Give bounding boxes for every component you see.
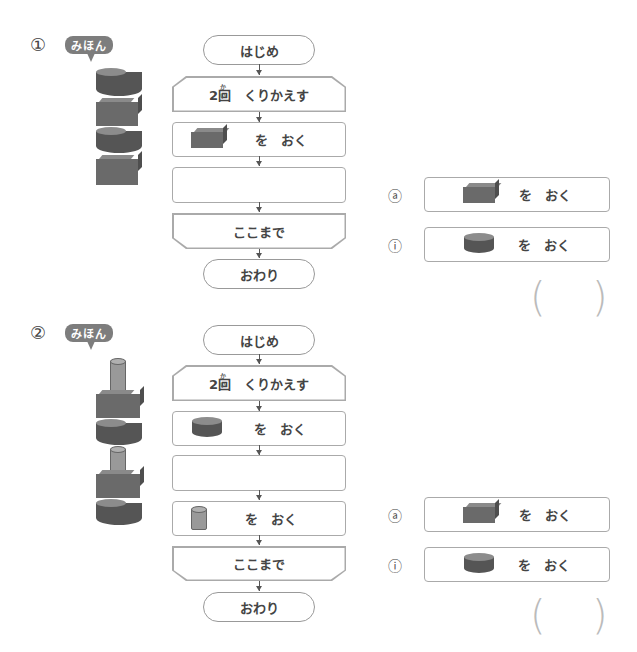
choice-mark-a-2: ⓐ bbox=[388, 505, 402, 525]
arrow-icon bbox=[259, 445, 260, 455]
flow-blank-slot-1[interactable] bbox=[172, 167, 346, 203]
cylinder-icon bbox=[96, 72, 142, 96]
problem-1-number: ① bbox=[30, 34, 46, 55]
cylinder-icon bbox=[96, 131, 142, 153]
flow-loop-start-1: 2かい回 くりかえす bbox=[172, 76, 346, 112]
flow-loop-end-2: ここまで bbox=[172, 546, 346, 581]
flow-end-2: おわり bbox=[203, 592, 315, 622]
rod-icon bbox=[110, 360, 126, 392]
flow-end-1: おわり bbox=[203, 259, 315, 289]
cube-icon bbox=[463, 187, 495, 203]
cube-icon bbox=[96, 394, 140, 418]
answer-close-paren-2: ) bbox=[592, 592, 608, 638]
arrow-icon bbox=[259, 64, 260, 75]
flow-blank-slot-2[interactable] bbox=[172, 455, 346, 491]
arrow-icon bbox=[259, 581, 260, 591]
choice-mark-a-1: ⓐ bbox=[388, 185, 402, 205]
cube-icon bbox=[96, 102, 138, 126]
sample-label-1: みほん bbox=[65, 36, 113, 54]
arrow-icon bbox=[259, 156, 260, 166]
choice-a-2[interactable]: を おく bbox=[424, 497, 610, 532]
cylinder-icon bbox=[192, 421, 222, 437]
cylinder-icon bbox=[464, 237, 494, 253]
arrow-icon bbox=[259, 401, 260, 411]
answer-field-1[interactable] bbox=[540, 282, 594, 314]
answer-close-paren-1: ) bbox=[592, 274, 608, 320]
flow-step-1: を おく bbox=[172, 122, 346, 157]
rod-icon bbox=[191, 508, 207, 530]
sample-label-2: みほん bbox=[65, 324, 113, 342]
answer-field-2[interactable] bbox=[540, 600, 594, 632]
problem-2-number: ② bbox=[30, 322, 46, 343]
flow-loop-start-2: 2かい回 くりかえす bbox=[172, 365, 346, 401]
sample-stack-2 bbox=[96, 360, 142, 525]
flow-start-2: はじめ bbox=[203, 325, 315, 355]
choice-mark-i-1: ⓘ bbox=[388, 235, 402, 255]
arrow-icon bbox=[259, 490, 260, 500]
flow-step-1-2: を おく bbox=[172, 411, 346, 446]
cylinder-icon bbox=[96, 423, 142, 445]
flow-loop-end-1: ここまで bbox=[172, 213, 346, 249]
sample-stack-1 bbox=[96, 72, 142, 185]
cube-icon bbox=[96, 159, 138, 185]
arrow-icon bbox=[259, 354, 260, 364]
arrow-icon bbox=[259, 112, 260, 122]
arrow-icon bbox=[259, 249, 260, 258]
arrow-icon bbox=[259, 535, 260, 545]
flow-start-1: はじめ bbox=[203, 35, 315, 65]
choice-i-2[interactable]: を おく bbox=[424, 547, 610, 582]
flow-step-3-2: を おく bbox=[172, 501, 346, 536]
arrow-icon bbox=[259, 202, 260, 212]
choice-a-1[interactable]: を おく bbox=[424, 177, 610, 212]
cylinder-icon bbox=[96, 503, 142, 525]
cylinder-icon bbox=[464, 557, 494, 573]
choice-i-1[interactable]: を おく bbox=[424, 227, 610, 262]
cube-icon bbox=[463, 507, 495, 523]
rod-icon bbox=[110, 448, 126, 472]
cube-icon bbox=[96, 474, 140, 498]
cube-icon bbox=[191, 132, 223, 148]
choice-mark-i-2: ⓘ bbox=[388, 555, 402, 575]
